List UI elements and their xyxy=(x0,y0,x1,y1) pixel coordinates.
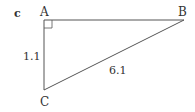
vertex-label-a: A xyxy=(39,5,49,19)
triangle-abc xyxy=(44,20,184,90)
vertex-label-c: C xyxy=(40,95,49,109)
right-triangle-diagram: c A B C 1.1 6.1 xyxy=(0,0,195,112)
side-label-bc: 6.1 xyxy=(109,64,127,77)
vertex-label-b: B xyxy=(178,5,187,19)
panel-label: c xyxy=(14,7,21,20)
right-angle-marker xyxy=(44,20,52,28)
side-label-ac: 1.1 xyxy=(23,50,41,63)
